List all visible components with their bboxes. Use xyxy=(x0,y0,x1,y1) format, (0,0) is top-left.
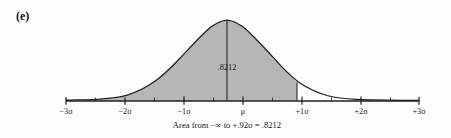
axis-label-mu: μ xyxy=(241,107,246,116)
area-value-label: .8212 xyxy=(218,63,237,72)
axis-label-plus-1-sigma: +1σ xyxy=(295,107,309,116)
normal-distribution-plot: −3σ −2σ −1σ μ +1σ +2σ +3σ .8212 Area fro… xyxy=(0,0,451,138)
axis-label-minus-3-sigma: −3σ xyxy=(59,107,73,116)
figure-caption: Area from −∞ to +.92σ = .8212 xyxy=(173,120,281,130)
axis-label-plus-3-sigma: +3σ xyxy=(412,107,426,116)
axis-label-minus-2-sigma: −2σ xyxy=(118,107,132,116)
shaded-area-region xyxy=(101,20,297,101)
axis-label-plus-2-sigma: +2σ xyxy=(354,107,368,116)
figure-container: (e) xyxy=(0,0,451,138)
axis-label-minus-1-sigma: −1σ xyxy=(177,107,191,116)
